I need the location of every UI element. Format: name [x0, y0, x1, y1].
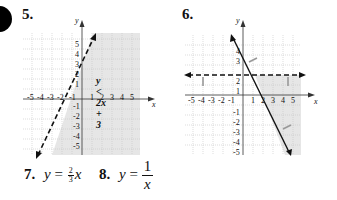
line-arrow-icon	[299, 72, 306, 78]
y-axis-arrow-icon	[241, 20, 246, 27]
inequality-label: y < 2x + 3	[96, 75, 106, 130]
y-tick: 5	[75, 40, 79, 49]
y-tick: -2	[233, 118, 240, 127]
y-tick: 4	[236, 47, 240, 56]
x-tick: 5	[291, 96, 295, 105]
line-arrow-icon	[184, 72, 191, 78]
fraction: 23	[68, 167, 74, 184]
x-tick: 1	[251, 96, 255, 105]
x-tick: -2	[57, 93, 64, 102]
x-tick: -5	[188, 96, 195, 105]
x-tick: -5	[27, 93, 34, 102]
x-tick: 4	[120, 93, 124, 102]
y-tick: 2	[75, 70, 79, 79]
y-axis-label: y	[75, 16, 79, 25]
x-tick: 3	[110, 93, 114, 102]
x-tick: 3	[271, 96, 275, 105]
y-tick: 3	[75, 60, 79, 69]
x-axis-label: x	[152, 100, 156, 109]
y-tick: -1	[73, 102, 80, 111]
y-axis-label: y	[236, 16, 240, 25]
x-axis-label: x	[314, 97, 318, 106]
variable: x	[75, 166, 82, 182]
graph-5	[23, 20, 155, 159]
y-tick: -3	[73, 122, 80, 131]
y-tick: -2	[73, 112, 80, 121]
x-tick: -3	[208, 96, 215, 105]
y-tick: -1	[233, 108, 240, 117]
fraction: 1x	[142, 158, 154, 193]
y-tick: -5	[233, 148, 240, 157]
x-tick: -4	[198, 96, 205, 105]
y-tick: -3	[233, 128, 240, 137]
x-tick: -4	[37, 93, 44, 102]
y-tick: 2	[236, 77, 240, 86]
y-tick: 3	[236, 57, 240, 66]
x-tick: -3	[47, 93, 54, 102]
x-tick: 2	[261, 96, 265, 105]
x-tick: 4	[281, 96, 285, 105]
problem-7-number: 7.	[24, 166, 35, 182]
graph-6	[184, 20, 315, 156]
y-tick: 4	[75, 50, 79, 59]
x-tick: -2	[218, 96, 225, 105]
y-tick: 1	[236, 87, 240, 96]
y-tick: -5	[73, 142, 80, 151]
problem-8: 8. y = 1x	[99, 158, 153, 193]
problem-8-number: 8.	[99, 166, 110, 182]
line-arrow-icon	[36, 151, 42, 159]
y-tick: -4	[233, 138, 240, 147]
problem-7: 7. y = 23x	[24, 166, 81, 184]
x-tick: 1	[90, 93, 94, 102]
y-tick: 1	[75, 80, 79, 89]
y-axis-arrow-icon	[80, 20, 85, 27]
x-tick: -1	[228, 96, 235, 105]
equals: =	[54, 166, 62, 182]
x-tick: 5	[130, 93, 134, 102]
x-tick: -1	[69, 93, 76, 102]
y-tick: -4	[73, 132, 80, 141]
equals: =	[129, 166, 137, 182]
lhs: y	[44, 166, 51, 182]
lhs: y	[119, 166, 126, 182]
